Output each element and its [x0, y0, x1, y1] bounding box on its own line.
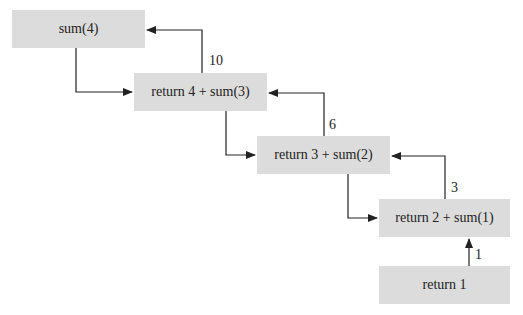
box-return-3: return 3 + sum(2) — [257, 136, 390, 174]
box-label: return 4 + sum(3) — [151, 84, 250, 100]
return-value-10: 10 — [209, 53, 223, 69]
box-label: return 3 + sum(2) — [274, 147, 373, 163]
return-arrow-ret2-to-ret3 — [392, 156, 445, 199]
box-label: return 2 + sum(1) — [395, 210, 494, 226]
call-arrow-sum4-to-ret4 — [76, 48, 132, 92]
box-return-1: return 1 — [379, 266, 510, 304]
call-arrow-ret4-to-ret3 — [226, 111, 255, 155]
recursion-diagram: sum(4) return 4 + sum(3) return 3 + sum(… — [0, 0, 523, 315]
return-value-1: 1 — [475, 247, 482, 263]
box-label: sum(4) — [59, 21, 99, 37]
call-arrow-ret3-to-ret2 — [348, 174, 377, 218]
box-sum4: sum(4) — [12, 10, 145, 48]
return-value-3: 3 — [451, 180, 458, 196]
return-arrow-ret4-to-sum4 — [147, 30, 202, 73]
box-label: return 1 — [423, 277, 467, 293]
box-return-4: return 4 + sum(3) — [134, 73, 267, 111]
box-return-2: return 2 + sum(1) — [379, 199, 510, 237]
return-value-6: 6 — [329, 117, 336, 133]
return-arrow-ret3-to-ret4 — [269, 93, 324, 136]
